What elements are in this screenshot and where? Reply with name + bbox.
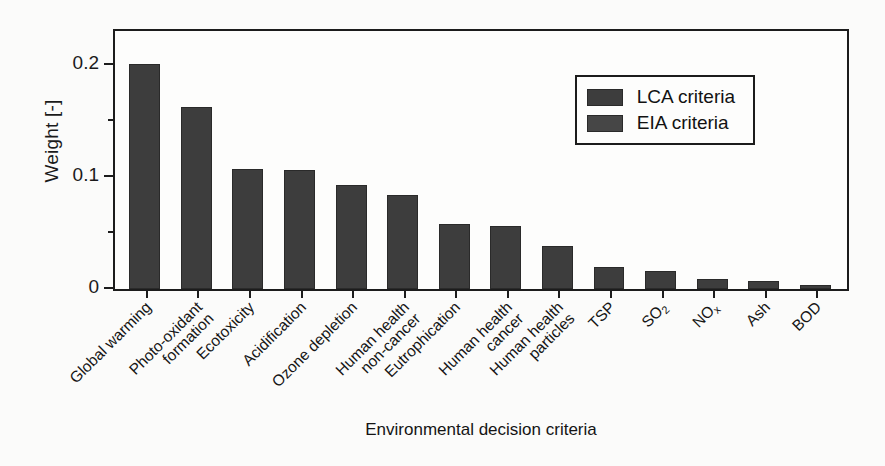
bar-slot [428,31,480,289]
bar-slot [119,31,171,289]
y-axis-title: Weight [-] [41,51,63,231]
bar-slot [274,31,326,289]
x-label-nox: NOx [690,299,722,331]
y-tick-minor-0.05 [108,231,115,233]
y-tick-minor-0.15 [108,119,115,121]
bar-slot [790,31,842,289]
y-tick-0.1: 0.1 [104,175,115,177]
bar-human-health-non-cancer [387,195,418,289]
bar-group [115,31,847,289]
bar-slot [635,31,687,289]
bar-ozone-depletion [336,185,367,289]
bar-human-health-particles [542,246,573,289]
x-label-bod: BOD [790,299,825,334]
y-tick-label-0.1: 0.1 [73,164,99,186]
bar-slot [325,31,377,289]
bar-human-health-cancer [490,226,521,289]
x-label-ash: Ash [743,299,773,329]
bar-slot [222,31,274,289]
x-axis-tick-labels: Global warmingPhoto-oxidantformationEcot… [113,293,849,413]
legend-label: EIA criteria [637,112,729,134]
y-tick-label-0.2: 0.2 [73,52,99,74]
bar-slot [480,31,532,289]
bar-slot [377,31,429,289]
bar-slot [686,31,738,289]
bar-acidification [284,170,315,289]
y-tick-0: 0 [104,287,115,289]
legend-label: LCA criteria [637,86,735,108]
legend-entry-1: LCA criteria [587,84,735,110]
x-axis-title: Environmental decision criteria [113,420,849,440]
bar-slot [738,31,790,289]
legend-entry-2: EIA criteria [587,110,735,136]
bar-slot [171,31,223,289]
bar-slot [583,31,635,289]
bar-tsp [594,267,625,289]
bar-nox [697,279,728,289]
y-tick-0.2: 0.2 [104,63,115,65]
bar-so2 [645,271,676,289]
bar-bod [800,285,831,289]
bar-global-warming [129,64,160,289]
legend-swatch-icon [587,115,623,132]
bar-ecotoxicity [232,169,263,289]
bar-ash [748,281,779,289]
chart-figure: Weight [-] 0 0.1 0.2 LCA criteriaEIA cri… [0,0,885,466]
x-label-so2: SO2 [638,299,670,331]
x-label-tsp: TSP [586,299,619,332]
chart-legend: LCA criteriaEIA criteria [575,75,755,145]
legend-swatch-icon [587,89,623,106]
y-tick-label-0: 0 [88,276,99,298]
bar-photo-oxidant-formation [181,107,212,289]
bar-eutrophication [439,224,470,289]
plot-area: 0 0.1 0.2 LCA criteriaEIA criteria [113,29,849,291]
bar-slot [532,31,584,289]
